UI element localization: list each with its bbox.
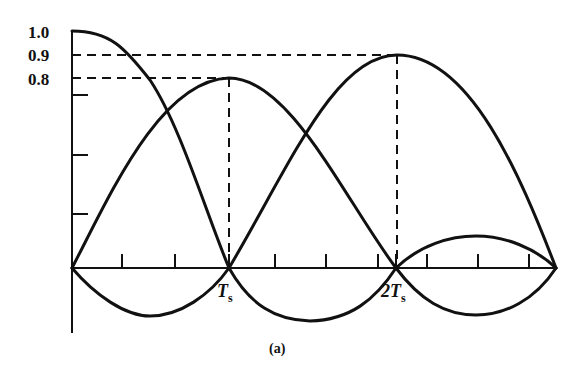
- figure-caption: (a): [269, 341, 286, 357]
- y-label-0.9: 0.9: [28, 46, 49, 65]
- curve-3: [72, 55, 556, 316]
- reference-lines: [72, 55, 397, 268]
- x-ticks: [122, 254, 529, 268]
- x-label-2ts: 2Ts: [380, 281, 406, 305]
- y-label-1.0: 1.0: [28, 23, 49, 42]
- chart: 1.0 0.9 0.8 Ts 2Ts (a): [0, 0, 581, 367]
- curve-1: [72, 31, 556, 321]
- y-label-0.8: 0.8: [28, 70, 49, 89]
- y-ticks: [72, 95, 88, 214]
- x-label-ts: Ts: [217, 281, 233, 305]
- curves: [72, 31, 556, 321]
